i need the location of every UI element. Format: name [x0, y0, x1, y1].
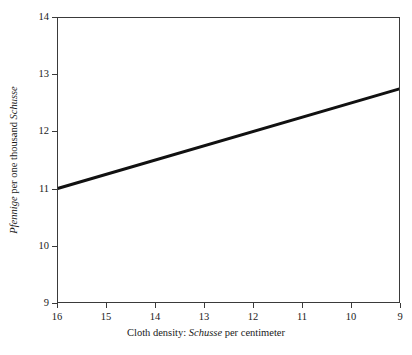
x-tick-label: 9 — [397, 312, 402, 323]
x-tick-mark — [302, 303, 303, 308]
y-tick-label: 10 — [25, 241, 49, 252]
x-tick-mark — [253, 303, 254, 308]
y-tick-mark — [52, 246, 57, 247]
y-tick-label: 11 — [25, 183, 49, 194]
y-axis-title-italic-1: Pfennige — [8, 196, 19, 233]
y-tick-mark — [52, 17, 57, 18]
x-axis-title-italic: Schusse — [189, 327, 222, 338]
x-tick-mark — [400, 303, 401, 308]
x-tick-mark — [57, 303, 58, 308]
y-tick-mark — [52, 303, 57, 304]
y-tick-mark — [52, 74, 57, 75]
y-axis-title-italic-2: Schusse — [8, 86, 19, 119]
y-axis-title: Pfennige per one thousand Schusse — [8, 17, 24, 303]
x-tick-label: 16 — [52, 312, 63, 323]
data-series-line — [58, 18, 399, 302]
y-tick-label: 14 — [25, 12, 49, 23]
x-tick-label: 14 — [150, 312, 161, 323]
x-tick-mark — [204, 303, 205, 308]
x-tick-label: 11 — [297, 312, 307, 323]
wage-rate-line — [58, 89, 399, 188]
x-axis-title-prefix: Cloth density: — [127, 327, 189, 338]
y-tick-mark — [52, 189, 57, 190]
x-axis-title: Cloth density: Schusse per centimeter — [0, 327, 412, 339]
y-tick-mark — [52, 131, 57, 132]
x-tick-label: 12 — [248, 312, 259, 323]
y-tick-label: 12 — [25, 126, 49, 137]
x-tick-mark — [351, 303, 352, 308]
y-tick-label: 9 — [25, 298, 49, 309]
figure-canvas: 161514131211109 91011121314 Cloth densit… — [0, 0, 412, 355]
plot-area — [57, 17, 400, 303]
x-tick-mark — [106, 303, 107, 308]
x-tick-label: 15 — [101, 312, 112, 323]
x-tick-mark — [155, 303, 156, 308]
y-axis-title-mid: per one thousand — [8, 119, 19, 196]
x-axis-title-suffix: per centimeter — [222, 327, 285, 338]
y-tick-label: 13 — [25, 69, 49, 80]
x-tick-label: 10 — [346, 312, 357, 323]
x-tick-label: 13 — [199, 312, 210, 323]
